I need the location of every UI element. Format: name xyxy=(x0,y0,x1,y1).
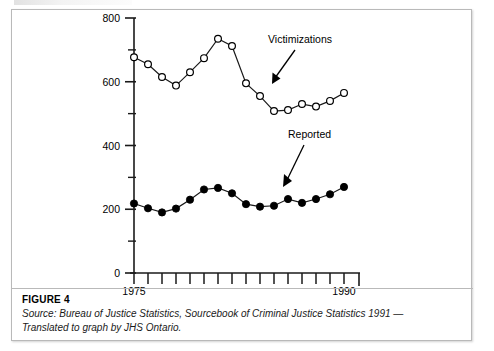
data-point-reported-1976 xyxy=(144,205,151,212)
data-point-reported-1980 xyxy=(200,186,207,193)
series-line-victimizations xyxy=(134,39,344,111)
data-point-victimizations-1976 xyxy=(145,61,152,68)
y-axis-tick-label-0: 0 xyxy=(114,267,120,279)
data-point-reported-1983 xyxy=(242,201,249,208)
chart-plot-area: 800 600 400 200 0 1975 1990 Victimizatio… xyxy=(12,10,473,298)
figure-card: 800 600 400 200 0 1975 1990 Victimizatio… xyxy=(11,9,472,341)
axis-lines xyxy=(130,18,360,286)
annotation-victimizations-arrow-line xyxy=(275,50,295,78)
annotation-reported: Reported xyxy=(283,128,331,187)
data-point-reported-1984 xyxy=(256,203,263,210)
data-point-reported-1982 xyxy=(228,190,235,197)
y-axis-tick-label-800: 800 xyxy=(102,12,120,24)
figure-caption-block: FIGURE 4 Source: Bureau of Justice Stati… xyxy=(12,288,473,340)
data-point-victimizations-1982 xyxy=(229,43,236,50)
data-point-reported-1989 xyxy=(326,191,333,198)
data-point-victimizations-1985 xyxy=(271,108,278,115)
y-axis-tick-label-200: 200 xyxy=(102,203,120,215)
data-point-victimizations-1990 xyxy=(341,90,348,97)
data-point-victimizations-1979 xyxy=(187,69,194,76)
annotation-victimizations-label: Victimizations xyxy=(268,33,332,45)
data-point-reported-1979 xyxy=(186,196,193,203)
annotation-victimizations-arrow-head xyxy=(272,73,281,85)
data-point-victimizations-1988 xyxy=(313,103,320,110)
data-point-reported-1975 xyxy=(130,200,137,207)
data-point-victimizations-1980 xyxy=(201,55,208,62)
annotation-reported-arrow-line xyxy=(287,145,304,180)
data-point-victimizations-1978 xyxy=(173,82,180,89)
series-reported xyxy=(130,183,347,216)
data-point-reported-1985 xyxy=(270,202,277,209)
data-point-victimizations-1989 xyxy=(327,97,334,104)
annotation-reported-label: Reported xyxy=(288,128,331,140)
y-axis-tick-label-600: 600 xyxy=(102,76,120,88)
y-axis-tick-label-400: 400 xyxy=(102,140,120,152)
data-point-reported-1986 xyxy=(284,195,291,202)
line-chart: 800 600 400 200 0 1975 1990 Victimizatio… xyxy=(12,10,473,298)
data-point-reported-1978 xyxy=(172,205,179,212)
figure-source-line-2: Translated to graph by JHS Ontario. xyxy=(22,321,463,335)
data-point-reported-1981 xyxy=(214,184,221,191)
annotation-reported-arrow-head xyxy=(283,174,292,187)
data-point-reported-1990 xyxy=(340,183,347,190)
data-point-reported-1988 xyxy=(312,195,319,202)
page-edge-artifact xyxy=(14,0,132,5)
data-point-victimizations-1983 xyxy=(243,80,250,87)
x-axis-ticks xyxy=(134,273,344,284)
data-point-reported-1987 xyxy=(298,199,305,206)
data-point-victimizations-1981 xyxy=(215,35,222,42)
data-point-victimizations-1984 xyxy=(257,93,264,100)
annotation-victimizations: Victimizations xyxy=(268,33,332,84)
data-point-victimizations-1977 xyxy=(159,74,166,81)
data-point-victimizations-1987 xyxy=(299,101,306,108)
data-point-reported-1977 xyxy=(158,209,165,216)
series-victimizations xyxy=(131,35,348,114)
data-point-victimizations-1986 xyxy=(285,107,292,114)
figure-number-label: FIGURE 4 xyxy=(22,293,463,306)
data-point-victimizations-1975 xyxy=(131,54,138,61)
figure-source-line-1: Source: Bureau of Justice Statistics, So… xyxy=(22,307,463,321)
